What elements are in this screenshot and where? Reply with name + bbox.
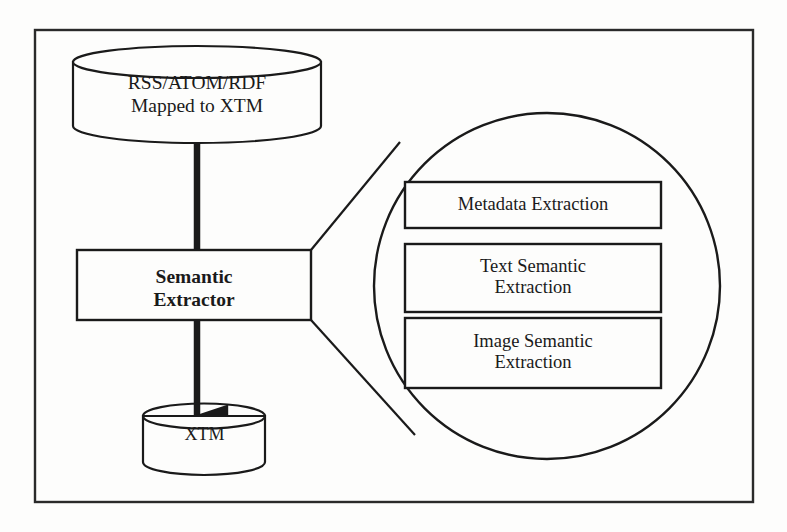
callout-line-upper (311, 142, 400, 250)
processor-label: Semantic Extractor (77, 266, 311, 311)
sub-box-label-image-semantic-extraction: Image Semantic Extraction (405, 331, 661, 374)
sub-box-label-text-semantic-extraction: Text Semantic Extraction (405, 256, 661, 299)
sub-box-label-metadata-extraction: Metadata Extraction (405, 194, 661, 215)
source-cylinder-label: RSS/ATOM/RDF Mapped to XTM (73, 72, 321, 117)
sink-cylinder-label: XTM (143, 424, 266, 445)
diagram-canvas: RSS/ATOM/RDF Mapped to XTM Semantic Extr… (0, 0, 787, 532)
